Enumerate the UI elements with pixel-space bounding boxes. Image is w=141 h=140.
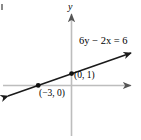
point-label-x-intercept: (−3, 0) <box>39 89 65 99</box>
line-equation-label: 6y − 2x = 6 <box>79 36 128 47</box>
point-label-y-intercept: (0, 1) <box>74 71 95 81</box>
y-axis-label: y <box>68 2 72 12</box>
coordinate-plane-svg <box>0 0 141 140</box>
graph-figure: y 6y − 2x = 6 (0, 1) (−3, 0) <box>0 0 141 140</box>
